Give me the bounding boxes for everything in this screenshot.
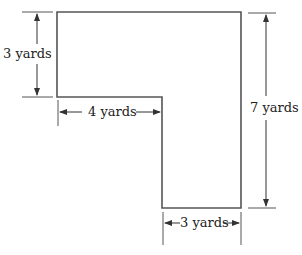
left-height-dimension: 3 yards [3, 12, 53, 97]
bottom-width-dimension: 3 yards [163, 212, 241, 245]
right-height-dimension: 7 yards [248, 13, 299, 208]
l-shape-diagram: 3 yards 4 yards 7 yards 3 yards [0, 0, 302, 255]
inner-width-label: 4 yards [88, 104, 137, 119]
inner-width-dimension: 4 yards [58, 100, 160, 126]
left-height-label: 3 yards [3, 46, 52, 61]
right-height-label: 7 yards [250, 100, 299, 115]
bottom-width-label: 3 yards [180, 215, 229, 230]
l-shape-outline [57, 12, 241, 208]
